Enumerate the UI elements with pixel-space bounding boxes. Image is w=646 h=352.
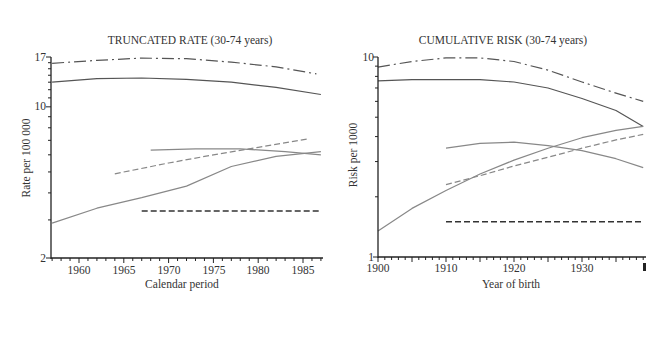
left-x-tick-1960: 1960 [68, 264, 91, 276]
right-x-tick-1930: 1930 [571, 262, 594, 274]
right-x-tick-1900: 1900 [367, 262, 390, 274]
right-series-4 [446, 134, 643, 184]
right-chart: CUMULATIVE RISK (30-74 years) 10 1 1900 … [347, 34, 646, 290]
right-series-2 [446, 142, 643, 167]
left-y-tick-10: 10 [35, 100, 47, 112]
left-chart: TRUNCATED RATE (30-74 years) 17 10 2 196… [20, 34, 323, 291]
right-plot-area [378, 58, 643, 231]
left-y-tick-2: 2 [40, 252, 46, 264]
left-x-tick-1985: 1985 [292, 264, 315, 276]
left-series-0 [52, 58, 316, 74]
left-x-tick-1970: 1970 [158, 264, 181, 276]
right-series-1 [378, 80, 643, 127]
left-x-axis-label: Calendar period [145, 278, 219, 291]
right-x-tick-1920: 1920 [503, 262, 526, 274]
right-y-ticks [373, 57, 378, 257]
right-axes: 10 1 1900 1910 1920 1930 [363, 51, 646, 274]
right-y-axis-label: Risk per 1000 [347, 122, 360, 187]
figure: TRUNCATED RATE (30-74 years) 17 10 2 196… [0, 0, 646, 352]
left-axes: 17 10 2 1960 1965 1970 1975 1980 1985 [35, 51, 324, 276]
right-chart-title: CUMULATIVE RISK (30-74 years) [419, 34, 587, 47]
left-plot-area [52, 58, 321, 223]
right-x-tick-1910: 1910 [435, 262, 458, 274]
right-y-tick-10: 10 [363, 51, 375, 63]
left-chart-title: TRUNCATED RATE (30-74 years) [108, 34, 273, 47]
left-x-ticks [52, 258, 321, 263]
left-y-axis-label: Rate per 100 000 [20, 118, 33, 197]
left-series-1 [52, 78, 321, 95]
left-x-tick-1965: 1965 [113, 264, 136, 276]
left-y-tick-17: 17 [35, 51, 47, 63]
left-x-tick-1975: 1975 [203, 264, 226, 276]
left-x-tick-1980: 1980 [247, 264, 270, 276]
right-x-axis-label: Year of birth [482, 278, 540, 290]
left-series-4 [52, 152, 321, 223]
left-y-ticks [46, 57, 51, 258]
